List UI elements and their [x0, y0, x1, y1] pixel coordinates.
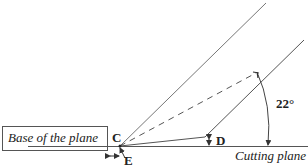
plane-geometry-diagram: Base of the plane C D E 22° Cutting plan… — [0, 0, 308, 168]
upper-edge-line — [120, 3, 266, 146]
e-label: E — [124, 153, 133, 168]
base-label: Base of the plane — [8, 130, 98, 146]
cutting-plane-label: Cutting plane — [235, 148, 306, 164]
angle-arc — [257, 72, 269, 145]
angle-label: 22° — [276, 96, 294, 112]
d-label: D — [216, 133, 225, 149]
dashed-reference-line — [120, 73, 256, 146]
c-label: C — [112, 130, 121, 146]
